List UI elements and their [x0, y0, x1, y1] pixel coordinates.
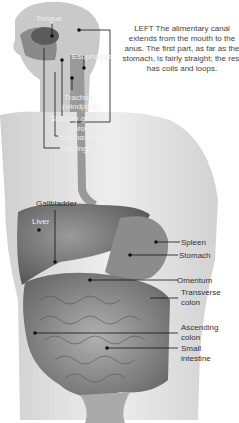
label-ascending-colon: Ascending	[181, 323, 218, 332]
label-small-intestine: Small	[181, 344, 201, 353]
label-trachea-2: (windpipe)	[62, 102, 99, 111]
label-liver: Liver	[32, 217, 49, 226]
figure-caption: LEFT The alimentary canal extends from t…	[122, 24, 239, 74]
label-ascending-colon-2: colon	[181, 333, 200, 342]
label-transverse-colon: Transverse	[181, 288, 221, 297]
label-small-intestine-2: intestine	[181, 354, 211, 363]
label-stomach: Stomach	[179, 251, 211, 260]
label-gallbladder: Gallbladder	[36, 199, 77, 208]
label-spleen: Spleen	[181, 238, 206, 247]
label-salivary: Salivary glands:	[50, 114, 106, 123]
label-tongue: Tongue	[36, 14, 62, 23]
label-esophagus: Esophagus	[72, 52, 112, 61]
label-submaxillary: submaxillary	[60, 133, 104, 142]
label-parotoid: parotoid	[69, 124, 98, 133]
label-trachea: Trachea	[64, 93, 93, 102]
label-transverse-colon-2: colon	[181, 298, 200, 307]
label-sublingual: sublingual	[62, 144, 98, 153]
label-omentum: Omentum	[177, 276, 212, 285]
